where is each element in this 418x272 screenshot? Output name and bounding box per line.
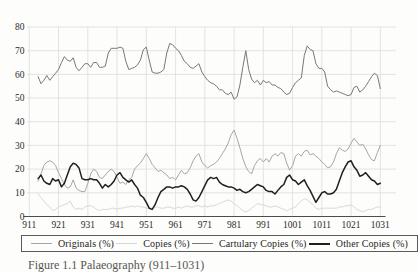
y-tick-label: 40 <box>15 117 25 127</box>
y-tick-label: 70 <box>15 46 25 56</box>
x-tick-label: 961 <box>168 220 183 230</box>
x-tick-label: 941 <box>110 220 125 230</box>
x-tick-label: 1031 <box>371 220 390 230</box>
y-tick-label: 80 <box>15 22 25 32</box>
x-tick-label: 991 <box>256 220 271 230</box>
x-tick-label: 971 <box>198 220 213 230</box>
originals-line-sample-icon <box>31 243 52 244</box>
series-line-originals <box>38 130 380 192</box>
y-tick-label: 50 <box>15 93 25 103</box>
x-tick-label: 931 <box>81 220 96 230</box>
legend-item-copies: Copies (%) <box>116 238 189 249</box>
x-tick-label: 1001 <box>283 220 302 230</box>
legend-item-cartulary-copies: Cartulary Copies (%) <box>192 238 307 249</box>
x-tick-label: 1021 <box>342 220 361 230</box>
x-tick-label: 911 <box>22 220 36 230</box>
figure-caption: Figure 1.1 Palaeography (911–1031) <box>28 259 204 272</box>
legend-item-originals: Originals (%) <box>31 238 114 249</box>
y-tick-label: 20 <box>15 164 25 174</box>
legend-label-cartulary-copies: Cartulary Copies (%) <box>219 238 307 249</box>
legend-item-other-copies: Other Copies (%) <box>309 238 408 249</box>
cartulary-copies-line-sample-icon <box>192 243 213 244</box>
series-line-cartulary-copies <box>38 44 380 100</box>
other-copies-line-sample-icon <box>309 243 330 245</box>
series-line-other-copies <box>38 161 380 210</box>
legend-label-copies: Copies (%) <box>143 238 189 249</box>
x-tick-label: 1011 <box>312 220 331 230</box>
line-chart: 0102030405060708091192193194195196197198… <box>0 0 405 233</box>
x-tick-label: 981 <box>227 220 242 230</box>
y-tick-label: 30 <box>15 141 25 151</box>
legend-label-other-copies: Other Copies (%) <box>336 238 408 249</box>
series-line-copies <box>38 194 380 212</box>
x-tick-label: 921 <box>51 220 66 230</box>
legend-label-originals: Originals (%) <box>58 238 114 249</box>
chart-legend: Originals (%) Copies (%) Cartulary Copie… <box>21 235 418 252</box>
copies-line-sample-icon <box>116 243 137 244</box>
x-tick-label: 951 <box>139 220 154 230</box>
y-tick-label: 10 <box>15 188 25 198</box>
y-tick-label: 60 <box>15 70 25 80</box>
